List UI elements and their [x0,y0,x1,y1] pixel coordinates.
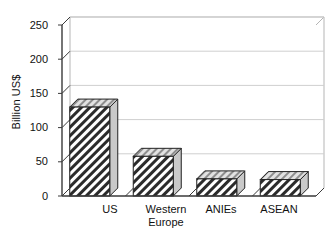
bar-asean-top-face [260,172,308,180]
plot-area [0,0,336,247]
y-tick-200 [62,51,70,59]
y-tick-250 [62,17,70,25]
bar-chart: Billion US$ 250 200 150 100 50 0 US West… [0,0,336,247]
x-tick-2 [189,188,197,196]
x-tick-3 [253,188,261,196]
bar-western-europe-top-face [133,148,181,156]
y-tick-100 [62,120,70,128]
y-tick-50 [62,154,70,162]
frame-depth-top-right [316,17,324,25]
y-tick-150 [62,85,70,93]
x-tick-0 [62,188,70,196]
bar-asean-front-face [260,180,300,196]
bar-us-side-face [110,99,118,196]
x-tick-1 [126,188,134,196]
bar-anies-top-face [197,171,245,179]
bar-anies-front-face [197,179,237,196]
bar-us-front-face [70,107,110,196]
x-axis-depth-right [316,188,324,196]
bar-western-europe-front-face [133,156,173,196]
bar-us-top-face [70,99,118,107]
